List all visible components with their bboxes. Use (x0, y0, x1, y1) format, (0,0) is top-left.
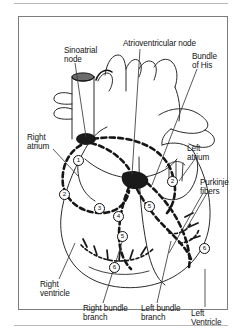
label-left-bundle-branch: Left bundle branch (141, 304, 180, 323)
top-divider-rule (14, 3, 228, 4)
label-bundle-of-his: Bundle of His (192, 52, 217, 71)
marker-6-right: 6 (199, 243, 210, 254)
marker-4: 4 (113, 211, 124, 222)
vessel-branch-lower (54, 108, 72, 120)
label-left-atrium: Left atrium (187, 144, 209, 163)
heart-diagram-stage: 1 2 2 3 4 5 5 6 6 Sinoatrial node Atriov… (19, 17, 227, 309)
marker-2-left: 2 (167, 176, 178, 187)
aortic-branch-2 (139, 61, 156, 80)
marker-5-upper: 5 (144, 201, 155, 212)
figure-frame: 1 2 2 3 4 5 5 6 6 Sinoatrial node Atriov… (18, 16, 228, 310)
pulmonary-trunk-shade (96, 70, 112, 80)
label-purkinje-fibers: Purkinje fibers (200, 178, 229, 197)
label-right-bundle-branch: Right bundle branch (83, 304, 128, 323)
label-sinoatrial-node: Sinoatrial node (64, 46, 97, 65)
label-right-atrium: Right atrium (27, 133, 49, 152)
marker-6-left: 6 (109, 262, 120, 273)
internodal-tract (91, 143, 129, 169)
marker-5-lower: 5 (117, 231, 128, 242)
pulmonary-vein-upper (159, 109, 208, 134)
marker-1: 1 (73, 155, 84, 166)
bottom-divider-rule (14, 325, 228, 326)
purkinje-branchlets-left (185, 213, 200, 239)
marker-2-right: 2 (59, 189, 70, 200)
vessel-branch-upper (54, 93, 72, 105)
right-bundle-branch-path (119, 187, 131, 269)
pulmonary-artery (98, 73, 112, 91)
label-atrioventricular-node: Atrioventricular node (123, 39, 196, 48)
pulmonary-vein-stem (162, 129, 171, 145)
atrioventricular-node-marker (122, 171, 149, 189)
superior-vena-cava-outline (72, 77, 94, 139)
marker-3: 3 (94, 203, 105, 214)
label-right-ventricle: Right ventricle (40, 280, 70, 299)
aortic-branch-3 (154, 59, 177, 87)
